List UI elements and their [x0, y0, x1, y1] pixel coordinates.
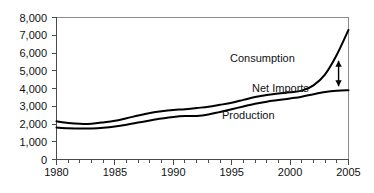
x-tick-label-1990: 1990: [161, 166, 185, 178]
arrow-head-down-icon: [335, 80, 341, 86]
y-tick-label-4000: 4,000: [19, 83, 47, 95]
x-tick-label-2005: 2005: [336, 166, 360, 178]
data-series-group: [57, 30, 349, 129]
y-tick-label-7000: 7,000: [19, 29, 47, 41]
y-tick-label-0: 0: [41, 154, 47, 166]
x-tick-label-1995: 1995: [219, 166, 243, 178]
line-chart: 8,000 7,000 6,000 5,000 4,000 3,000 2,00…: [0, 0, 374, 193]
y-tick-label-5000: 5,000: [19, 65, 47, 77]
label-consumption: Consumption: [230, 52, 295, 64]
x-tick-label-1985: 1985: [103, 166, 127, 178]
x-axis: 1980 1985 1990 1995 2000 2005: [44, 160, 360, 179]
y-tick-label-1000: 1,000: [19, 136, 47, 148]
series-annotations: Consumption Net Imports Production: [222, 52, 309, 121]
y-tick-label-3000: 3,000: [19, 100, 47, 112]
label-production: Production: [222, 109, 275, 121]
y-tick-label-6000: 6,000: [19, 47, 47, 59]
y-tick-label-2000: 2,000: [19, 118, 47, 130]
chart-container: 8,000 7,000 6,000 5,000 4,000 3,000 2,00…: [0, 0, 374, 193]
label-net-imports: Net Imports: [252, 82, 309, 94]
x-tick-label-2000: 2000: [278, 166, 302, 178]
net-imports-arrow: [335, 61, 341, 87]
x-tick-label-1980: 1980: [44, 166, 68, 178]
line-consumption: [57, 30, 349, 124]
y-tick-marks: [52, 18, 57, 160]
y-axis: 8,000 7,000 6,000 5,000 4,000 3,000 2,00…: [19, 12, 56, 166]
x-tick-marks: [57, 160, 349, 165]
y-tick-label-8000: 8,000: [19, 12, 47, 24]
arrow-head-up-icon: [335, 61, 341, 67]
